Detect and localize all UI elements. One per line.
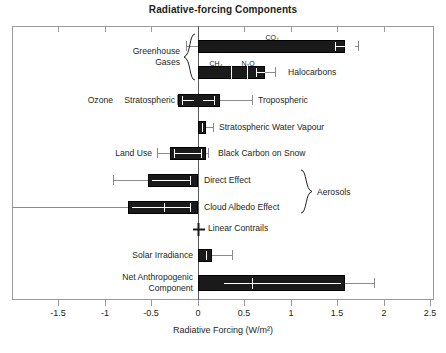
axis-tick <box>244 300 245 306</box>
bar-inner-error-cap <box>202 123 203 132</box>
bar-inner-error-cap <box>174 149 175 158</box>
bar-inner-error-cap <box>182 96 183 105</box>
bar-solar-irradiance <box>198 249 212 262</box>
net-anthro-line1: Net Anthropogenic <box>122 272 193 282</box>
axis-tick-label: 2.5 <box>424 308 437 318</box>
bar-co2 <box>198 40 345 53</box>
axis-tick <box>198 300 199 306</box>
bar-inner-error <box>224 283 341 284</box>
chart-title: Radiative-forcing Components <box>0 4 446 15</box>
label-land-use: Land Use <box>115 148 152 158</box>
bar-inner-error-cap <box>335 42 336 51</box>
label-stratospheric-water-vapour: Stratospheric Water Vapour <box>219 122 324 132</box>
label-halocarbons: Halocarbons <box>288 67 336 77</box>
error-whisker-cap <box>232 250 233 260</box>
x-axis-title: Radiative Forcing (W/m²) <box>0 325 446 335</box>
error-whisker-cap <box>374 278 375 288</box>
axis-tick-top <box>58 26 59 32</box>
label-net-anthropogenic-component: Net Anthropogenic Component <box>122 272 193 294</box>
axis-tick <box>430 300 431 306</box>
error-whisker-cap <box>358 41 359 51</box>
axis-tick-label: 2 <box>381 308 386 318</box>
bar-inner-error-cap <box>190 203 191 212</box>
greenhouse-line1: Greenhouse <box>133 46 180 56</box>
axis-tick <box>384 300 385 306</box>
label-direct-effect: Direct Effect <box>204 175 251 185</box>
bar-inner-error <box>132 207 190 208</box>
greenhouse-brace <box>182 33 196 81</box>
label-aerosols: Aerosols <box>317 187 350 197</box>
label-black-carbon-on-snow: Black Carbon on Snow <box>218 148 305 158</box>
chart-canvas: Radiative-forcing Components -1.5 -1 -0.… <box>0 0 446 353</box>
marker-linear-contrails <box>193 222 205 240</box>
axis-tick <box>58 300 59 306</box>
error-whisker-cap <box>208 148 209 158</box>
bar-inner-error <box>152 180 190 181</box>
bar-inner-error <box>256 72 265 73</box>
axis-tick <box>105 300 106 306</box>
axis-tick <box>291 300 292 306</box>
axis-tick-label: 0.5 <box>238 308 251 318</box>
axis-tick-label: 1.5 <box>331 308 344 318</box>
bar-inner-error-cap <box>164 203 165 212</box>
axis-tick-label: 0 <box>195 308 200 318</box>
axis-tick-label: 1 <box>288 308 293 318</box>
bar-inner-error-cap <box>214 96 215 105</box>
net-anthro-line2: Component <box>149 283 193 293</box>
error-whisker <box>205 127 213 128</box>
axis-tick-top <box>337 26 338 32</box>
bar-segment-divider <box>231 66 232 79</box>
error-whisker-cap <box>213 123 214 132</box>
bar-inner-error-cap <box>252 278 253 289</box>
axis-tick-top <box>384 26 385 32</box>
bar-inner-error-cap <box>256 68 257 77</box>
bar-inner-error <box>335 46 355 47</box>
error-whisker-cap <box>275 67 276 77</box>
bar-inner-error-cap <box>190 176 191 185</box>
axis-tick-top <box>244 26 245 32</box>
error-whisker-cap <box>252 95 253 105</box>
bar-inner-error-cap <box>206 251 207 260</box>
label-stratospheric: Stratospheric <box>124 95 175 105</box>
bar-inner-error <box>174 153 202 154</box>
error-whisker-cap <box>157 148 158 158</box>
label-cloud-albedo-effect: Cloud Albedo Effect <box>204 202 279 212</box>
axis-tick-label: -1 <box>101 308 109 318</box>
label-greenhouse-gases: Greenhouse Gases <box>133 46 180 68</box>
bar-segment-divider <box>247 66 248 79</box>
axis-tick-label: -1.5 <box>50 308 66 318</box>
label-linear-contrails: Linear Contrails <box>208 223 268 233</box>
label-solar-irradiance: Solar Irradiance <box>132 250 193 260</box>
bar-inner-error <box>182 100 194 101</box>
greenhouse-line2: Gases <box>155 57 180 67</box>
axis-tick <box>337 300 338 306</box>
axis-tick-label: -0.5 <box>143 308 159 318</box>
aerosols-brace <box>300 169 314 214</box>
axis-tick-top <box>291 26 292 32</box>
label-tropospheric: Tropospheric <box>258 95 308 105</box>
axis-tick-top <box>151 26 152 32</box>
bar-inner-error-cap <box>201 149 202 158</box>
axis-tick <box>151 300 152 306</box>
axis-tick-top <box>105 26 106 32</box>
error-whisker-cap <box>113 175 114 185</box>
label-ozone: Ozone <box>88 95 113 105</box>
